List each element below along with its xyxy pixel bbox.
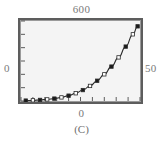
x-axis-max-label: 50 [145, 63, 163, 74]
data-point-marker [103, 73, 106, 76]
y-axis-min-label: 0 [4, 63, 18, 74]
data-point-marker [88, 84, 91, 87]
x-axis-min-label: 0 [0, 108, 163, 119]
y-axis-max-label: 600 [0, 4, 163, 15]
data-point-marker [24, 99, 27, 102]
plot-canvas [20, 20, 141, 102]
panel-caption: (C) [0, 124, 163, 135]
data-point-marker [67, 94, 70, 97]
data-point-marker [136, 25, 139, 28]
data-point-marker [124, 45, 127, 48]
data-point-marker [117, 56, 120, 59]
data-point-marker [95, 79, 98, 82]
data-point-marker [74, 92, 77, 95]
data-point-marker [53, 97, 56, 100]
data-point-markers [24, 25, 139, 102]
data-point-marker [45, 98, 48, 101]
data-point-marker [110, 65, 113, 68]
data-point-marker [131, 33, 134, 36]
data-point-marker [81, 88, 84, 91]
plot-frame [18, 18, 143, 104]
data-point-marker [60, 96, 63, 99]
data-point-marker [38, 98, 41, 101]
chart-panel: 600 0 50 0 (C) [0, 0, 163, 141]
y-axis-ticks [21, 21, 25, 101]
data-point-marker [31, 99, 34, 102]
